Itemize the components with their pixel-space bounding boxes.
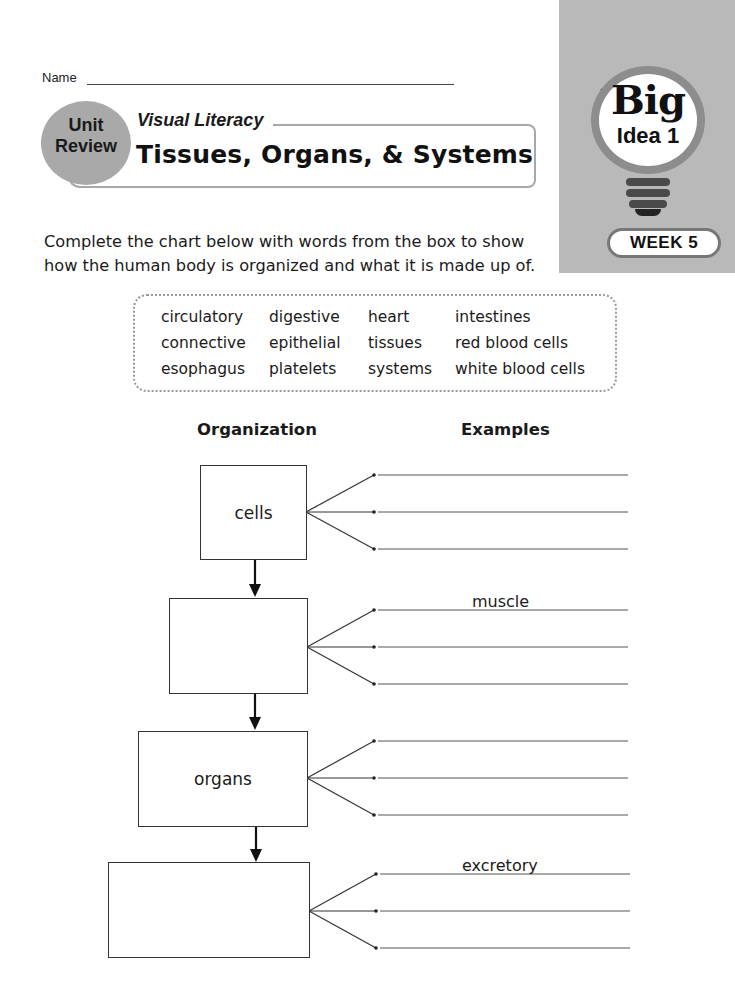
box-label: cells: [234, 503, 272, 523]
answer-line-tissues-2[interactable]: [378, 634, 628, 648]
organization-box-blank[interactable]: [108, 862, 310, 958]
answer-line-systems-3[interactable]: [380, 935, 630, 949]
box-label: organs: [194, 769, 252, 789]
answer-line-organs-2[interactable]: [378, 765, 628, 779]
answer-line-organs-3[interactable]: [378, 802, 628, 816]
organization-box-cells: cells: [200, 465, 307, 560]
organization-box-blank[interactable]: [169, 598, 308, 694]
answer-line-systems-2[interactable]: [380, 898, 630, 912]
answer-line-organs-1[interactable]: [378, 728, 628, 742]
answer-line-tissues-3[interactable]: [378, 671, 628, 685]
answer-line-cells-1[interactable]: [378, 462, 628, 476]
organization-box-organs: organs: [138, 731, 308, 827]
example-answer: muscle: [472, 592, 529, 611]
example-answer: excretory: [462, 856, 538, 875]
answer-line-cells-3[interactable]: [378, 536, 628, 550]
answer-line-cells-2[interactable]: [378, 499, 628, 513]
